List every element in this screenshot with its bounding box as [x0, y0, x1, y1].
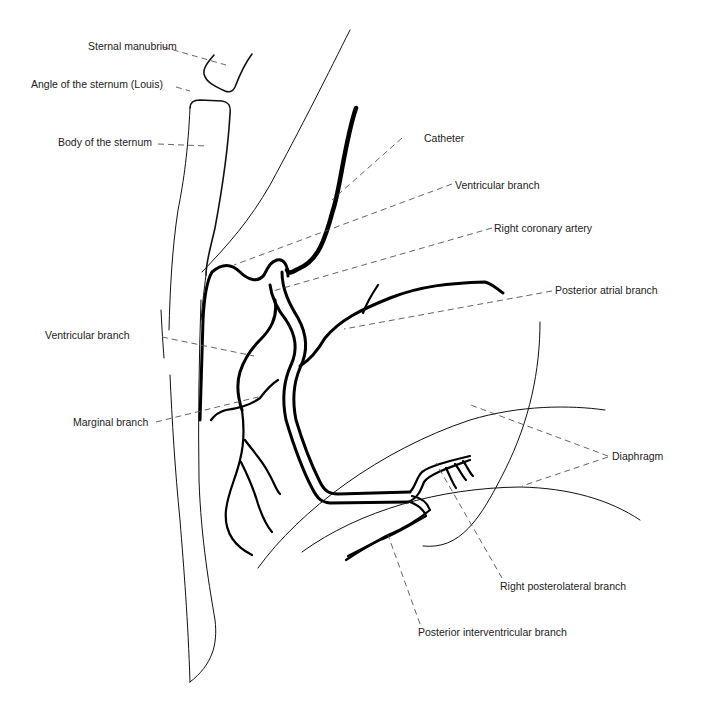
marginal-descending-1: [226, 410, 252, 555]
diagram-canvas: [0, 0, 702, 722]
rca-outer-wall: [200, 260, 288, 420]
label-ventricular-branch-left: Ventricular branch: [45, 329, 130, 341]
sternum-left-edge: [169, 108, 190, 330]
diaphragm-curve: [423, 322, 540, 546]
label-marginal-branch: Marginal branch: [73, 416, 148, 428]
ventricular-branch-vessel: [238, 300, 276, 410]
sternum-left-edge-fragment: [161, 310, 164, 358]
label-right-coronary-artery: Right coronary artery: [494, 222, 592, 234]
posterolateral-twig-1: [446, 468, 456, 488]
anatomy-diagram: Sternal manubrium Angle of the sternum (…: [0, 0, 702, 722]
leader-body-of-sternum: [158, 144, 207, 146]
label-ventricular-branch-upper: Ventricular branch: [455, 179, 540, 191]
heart-inferior-contour-2: [302, 487, 640, 552]
posterior-atrial-branch-vessel: [300, 282, 503, 366]
leader-angle-of-sternum: [176, 87, 190, 91]
label-posterior-atrial-branch: Posterior atrial branch: [555, 284, 658, 296]
label-angle-of-sternum: Angle of the sternum (Louis): [31, 78, 163, 90]
heart-inferior-contour-1: [258, 407, 605, 568]
label-right-posterolateral-branch: Right posterolateral branch: [500, 580, 626, 592]
leader-ventricular-branch-upper: [234, 184, 452, 265]
label-catheter: Catheter: [424, 132, 464, 144]
posterolateral-twig-3: [463, 461, 473, 476]
leader-posterior-atrial-branch: [344, 291, 552, 329]
leader-diaphragm-upper: [468, 404, 608, 456]
label-diaphragm: Diaphragm: [612, 450, 663, 462]
posterior-atrial-twig: [363, 285, 378, 313]
leader-right-coronary-artery: [273, 228, 492, 291]
sternal-manubrium-shape: [204, 54, 252, 92]
label-sternal-manubrium: Sternal manubrium: [88, 40, 177, 52]
posterolateral-twig-2: [455, 464, 466, 480]
sternum-left-edge-lower: [170, 375, 190, 682]
rca-main-left-wall: [270, 285, 408, 503]
heart-anterior-contour: [202, 30, 350, 272]
label-posterior-interventricular-branch: Posterior interventricular branch: [418, 626, 567, 638]
leader-diaphragm-lower: [522, 457, 608, 486]
leader-right-posterolateral: [436, 463, 502, 578]
label-body-of-sternum: Body of the sternum: [58, 136, 152, 148]
marginal-descending-2: [245, 440, 280, 494]
leader-ventricular-branch-left: [162, 337, 254, 356]
leader-posterior-interventricular: [388, 535, 420, 624]
